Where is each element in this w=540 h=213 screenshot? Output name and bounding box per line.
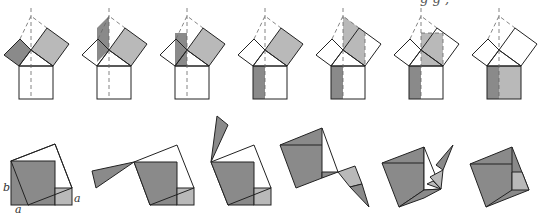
label-a-bottom: a	[15, 203, 22, 213]
dark-square	[11, 161, 55, 205]
final-large-rect	[499, 66, 521, 99]
dark-spike	[350, 184, 369, 207]
large-leg-square	[109, 28, 147, 66]
bottom-frame-6	[470, 147, 529, 207]
top-frame-5	[316, 8, 381, 99]
small-leg-square	[472, 39, 499, 66]
triangle	[487, 50, 521, 66]
pythagoras-diagram: b a a	[0, 0, 540, 213]
small-leg-square	[394, 39, 421, 66]
top-frame-2	[82, 8, 147, 99]
large-leg-square	[265, 28, 303, 66]
bottom-frame-5	[382, 145, 453, 207]
light-triangle	[338, 166, 362, 187]
light-square	[254, 188, 271, 205]
final-small-rect	[487, 66, 499, 99]
rotated-triangle	[211, 116, 228, 162]
large-leg-square	[499, 28, 537, 66]
label-a-right: a	[74, 192, 81, 205]
rotated-triangle	[92, 162, 134, 188]
moved-small-rect	[409, 66, 421, 99]
moved-small-rect	[331, 66, 343, 99]
large-leg-square	[31, 28, 69, 66]
dashed-extension	[488, 16, 515, 39]
hypotenuse-square	[97, 66, 131, 99]
bottom-frame-2	[92, 145, 194, 205]
cut-off-caption: g g ,	[420, 0, 449, 6]
small-leg-square	[316, 39, 343, 66]
bottom-frame-1: b a a	[3, 144, 81, 213]
top-frame-3	[160, 8, 225, 99]
bottom-frame-3	[211, 116, 271, 205]
top-frame-7	[472, 8, 537, 99]
light-square	[177, 188, 194, 205]
small-leg-square	[4, 39, 31, 66]
hinge-edge	[322, 128, 338, 172]
sheared-large-rect	[421, 33, 443, 66]
dark-body	[211, 162, 254, 205]
top-frame-1	[4, 8, 69, 99]
hypotenuse-square	[175, 66, 209, 99]
label-b: b	[3, 181, 10, 194]
light-square	[55, 188, 72, 205]
small-dark-wedge	[322, 172, 338, 178]
top-frame-4	[238, 8, 303, 99]
moved-small-rect	[253, 66, 265, 99]
dark-tilted-square	[280, 128, 322, 188]
hypotenuse-square	[19, 66, 53, 99]
small-leg-square	[238, 39, 265, 66]
bottom-frame-4	[280, 128, 369, 207]
dark-body	[134, 162, 177, 205]
dark-spike	[436, 145, 453, 170]
light-fill-piece	[512, 172, 529, 190]
large-leg-square	[187, 28, 225, 66]
sheared-small-square	[97, 16, 109, 62]
top-frame-6	[394, 8, 459, 99]
diagram-canvas: b a a	[0, 0, 540, 213]
